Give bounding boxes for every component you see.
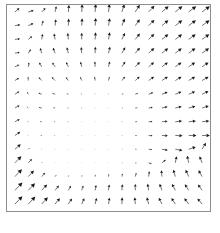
quiver-arrow bbox=[108, 174, 109, 177]
quiver-arrow bbox=[95, 149, 96, 150]
quiver-arrow bbox=[28, 23, 33, 25]
quiver-arrow bbox=[135, 93, 138, 94]
quiver-arrow bbox=[15, 132, 20, 136]
quiver-arrow bbox=[15, 91, 19, 94]
quiver-arrow bbox=[175, 34, 182, 39]
figure-root bbox=[0, 0, 220, 233]
quiver-arrow bbox=[108, 77, 110, 81]
quiver-arrow bbox=[147, 184, 150, 191]
quiver-arrow bbox=[160, 170, 163, 176]
quiver-arrow bbox=[55, 198, 60, 204]
quiver-arrow bbox=[15, 119, 20, 122]
quiver-arrow bbox=[95, 198, 98, 204]
quiver-arrow bbox=[175, 134, 182, 137]
quiver-arrow bbox=[162, 149, 168, 152]
quiver-arrow bbox=[202, 134, 210, 137]
quiver-arrow bbox=[66, 47, 69, 53]
quiver-arrow bbox=[175, 48, 181, 53]
quiver-arrow bbox=[135, 19, 140, 25]
quiver-arrow bbox=[189, 62, 195, 66]
quiver-arrow bbox=[202, 34, 209, 39]
quiver-arrow bbox=[81, 121, 82, 122]
quiver-arrow bbox=[149, 135, 153, 137]
quiver-arrow bbox=[41, 34, 43, 39]
quiver-arrow bbox=[189, 20, 196, 25]
quiver-arrow bbox=[162, 6, 169, 12]
quiver-arrow bbox=[122, 19, 125, 26]
quiver-arrow bbox=[175, 91, 181, 94]
quiver-arrow bbox=[135, 149, 137, 150]
quiver-arrow bbox=[202, 77, 208, 81]
quiver-arrow bbox=[122, 47, 125, 53]
quiver-arrow bbox=[162, 120, 168, 122]
quiver-arrow bbox=[55, 185, 59, 190]
quiver-arrow bbox=[27, 107, 29, 108]
quiver-arrow bbox=[108, 162, 109, 163]
quiver-arrow bbox=[42, 184, 47, 190]
quiver-arrow bbox=[108, 184, 111, 190]
quiver-arrow bbox=[202, 62, 208, 66]
quiver-arrow bbox=[94, 18, 97, 26]
quiver-arrow bbox=[94, 61, 96, 66]
quiver-arrow bbox=[199, 156, 202, 163]
quiver-arrow bbox=[95, 108, 96, 109]
quiver-arrow bbox=[108, 149, 109, 150]
quiver-arrow bbox=[162, 92, 168, 95]
quiver-arrow bbox=[202, 91, 208, 94]
quiver-arrow bbox=[122, 174, 123, 177]
quiver-arrow bbox=[189, 134, 197, 137]
quiver-arrow bbox=[15, 156, 21, 163]
quiver-arrow bbox=[189, 120, 196, 123]
quiver-arrow bbox=[172, 184, 175, 190]
quiver-arrow bbox=[202, 143, 206, 149]
quiver-arrow bbox=[68, 186, 71, 191]
quiver-arrow bbox=[27, 77, 29, 81]
quiver-arrow bbox=[135, 121, 137, 122]
plot-frame bbox=[6, 4, 211, 212]
quiver-arrow bbox=[202, 105, 209, 108]
quiver-arrow bbox=[108, 47, 111, 53]
quiver-arrow bbox=[175, 6, 182, 12]
quiver-arrow bbox=[80, 62, 82, 67]
quiver-arrow bbox=[189, 34, 196, 39]
quiver-arrow bbox=[80, 47, 83, 53]
quiver-arrow bbox=[15, 8, 20, 12]
quiver-arrow bbox=[135, 173, 137, 177]
quiver-arrow bbox=[39, 107, 42, 108]
quiver-arrow bbox=[189, 91, 195, 94]
quiver-arrow bbox=[81, 135, 82, 136]
quiver-arrow bbox=[186, 156, 189, 163]
quiver-arrow bbox=[15, 196, 22, 204]
quiver-arrow bbox=[149, 92, 154, 94]
quiver-arrow bbox=[82, 175, 83, 177]
quiver-arrow bbox=[162, 160, 166, 163]
quiver-arrow bbox=[162, 77, 168, 81]
quiver-arrow bbox=[185, 184, 189, 190]
quiver-arrow bbox=[28, 197, 35, 204]
quiver-arrow bbox=[122, 77, 125, 81]
quiver-arrow bbox=[67, 93, 69, 94]
quiver-arrow bbox=[27, 121, 28, 122]
quiver-arrow bbox=[149, 163, 152, 164]
quiver-arrow bbox=[15, 169, 22, 176]
quiver-arrow bbox=[171, 198, 175, 204]
quiver-arrow bbox=[15, 78, 19, 81]
quiver-arrow bbox=[28, 183, 35, 190]
quiver-arrow bbox=[198, 184, 202, 190]
quiver-arrow bbox=[173, 170, 176, 177]
quiver-arrow bbox=[107, 5, 110, 12]
quiver-arrow bbox=[95, 162, 96, 163]
arrow-layer bbox=[15, 5, 210, 204]
quiver-arrow bbox=[80, 5, 83, 12]
quiver-arrow bbox=[122, 33, 125, 39]
quiver-arrow bbox=[135, 48, 140, 53]
quiver-arrow bbox=[42, 173, 45, 177]
quiver-arrow bbox=[95, 135, 96, 136]
quiver-arrow bbox=[122, 94, 124, 95]
quiver-arrow bbox=[175, 156, 178, 163]
quiver-arrow bbox=[189, 6, 196, 12]
quiver-arrow bbox=[81, 94, 82, 95]
quiver-arrow bbox=[108, 121, 109, 122]
quiver-arrow bbox=[162, 106, 168, 108]
quiver-arrow bbox=[68, 135, 69, 136]
